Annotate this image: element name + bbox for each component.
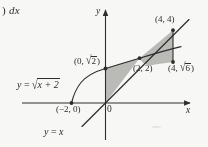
- sqrt-curve-equation-label: y = √x + 2: [17, 78, 60, 90]
- point-0-sqrt2-prefix: (0,: [74, 56, 86, 66]
- radicand-2: 2: [91, 56, 97, 66]
- radical-6: √6: [180, 63, 191, 73]
- point-2-2-label: (2, 2): [133, 64, 153, 73]
- point-4-sqrt6-prefix: (4,: [168, 63, 180, 73]
- dot-4-4: [171, 28, 175, 32]
- line-eq-lhs: y: [44, 126, 48, 137]
- radicand-6: 6: [185, 63, 191, 73]
- y-axis-label: y: [96, 6, 100, 16]
- line-eq-sign: =: [51, 126, 57, 137]
- radical-2: √2: [86, 56, 97, 66]
- line-eq-rhs: x: [59, 126, 63, 137]
- sqrt-eq-sign: =: [24, 79, 30, 90]
- dot-0-sqrt2: [104, 67, 108, 71]
- point-0-sqrt2-label: (0, √2): [74, 56, 100, 66]
- calculus-figure: ) dx y x 0 (4, 4): [0, 0, 208, 147]
- sqrt-eq-lhs: y: [17, 79, 21, 90]
- radicand-x-plus-2: x + 2: [37, 78, 60, 90]
- point-4-sqrt6-label: (4, √6): [168, 63, 194, 73]
- point-4-sqrt6-suffix: ): [191, 63, 194, 73]
- plot-canvas: [0, 0, 208, 147]
- scan-smudge: [152, 126, 161, 128]
- origin-label: 0: [107, 104, 112, 114]
- dot-2-2: [138, 56, 142, 60]
- x-axis-label: x: [186, 105, 190, 115]
- radical-x-plus-2: √x + 2: [32, 78, 60, 90]
- point-4-4-label: (4, 4): [155, 15, 175, 24]
- line-equation-label: y = x: [44, 126, 64, 137]
- point-minus2-0-label: (−2, 0): [56, 105, 81, 114]
- point-0-sqrt2-suffix: ): [97, 56, 100, 66]
